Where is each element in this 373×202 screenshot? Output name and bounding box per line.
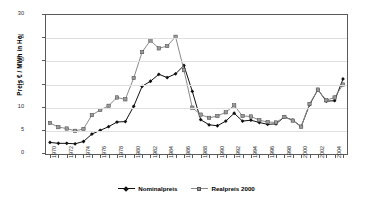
x-tick-label: 1980 <box>136 128 141 158</box>
data-point <box>207 116 210 119</box>
y-tick-label: 20 <box>2 57 24 63</box>
data-point <box>190 90 194 94</box>
data-point <box>291 119 294 122</box>
x-tick-mark <box>109 155 110 158</box>
x-tick-label: 1982 <box>153 128 158 158</box>
gridline <box>46 38 347 39</box>
data-point <box>199 113 202 116</box>
x-tick-mark <box>259 155 260 158</box>
series-nominalpreis <box>48 64 345 146</box>
data-point <box>333 96 336 99</box>
legend-label: Nominalpreis <box>138 185 177 192</box>
x-tick-mark <box>142 155 143 158</box>
data-point <box>316 88 319 91</box>
data-point <box>115 96 118 99</box>
data-point <box>249 118 253 122</box>
data-point <box>115 120 119 124</box>
data-point <box>65 127 68 130</box>
x-tick-label: 1994 <box>253 128 258 158</box>
data-point <box>266 120 269 123</box>
x-tick-mark <box>276 155 277 158</box>
series-line <box>50 66 343 144</box>
x-tick-mark <box>251 155 252 158</box>
data-point <box>140 50 143 53</box>
data-point <box>165 76 169 80</box>
x-tick-mark <box>243 155 244 158</box>
data-point <box>341 77 345 81</box>
data-point <box>232 104 235 107</box>
legend-label: Realpreis 2000 <box>211 185 254 192</box>
y-tick-label: 0 <box>2 150 24 156</box>
x-tick-mark <box>293 155 294 158</box>
legend-entry[interactable]: Nominalpreis <box>118 185 177 192</box>
x-tick-label: 1972 <box>69 128 74 158</box>
data-point <box>249 115 252 118</box>
x-tick-mark <box>134 155 135 158</box>
data-point <box>325 99 328 102</box>
data-point <box>258 118 261 121</box>
x-tick-mark <box>92 155 93 158</box>
x-tick-label: 1996 <box>270 128 275 158</box>
data-point <box>99 108 102 111</box>
x-tick-label: 1990 <box>220 128 225 158</box>
x-tick-mark <box>343 155 344 158</box>
x-tick-label: 1976 <box>102 128 107 158</box>
data-point <box>48 121 51 124</box>
x-tick-mark <box>335 155 336 158</box>
data-point <box>166 44 169 47</box>
data-point <box>283 115 286 118</box>
x-tick-mark <box>268 155 269 158</box>
x-tick-mark <box>209 155 210 158</box>
x-tick-mark <box>67 155 68 158</box>
data-point <box>308 102 311 105</box>
data-point <box>149 39 152 42</box>
x-tick-mark <box>125 155 126 158</box>
x-tick-label: 1986 <box>186 128 191 158</box>
x-tick-label: 1978 <box>119 128 124 158</box>
x-tick-mark <box>176 155 177 158</box>
data-point <box>157 47 160 50</box>
data-point <box>132 76 135 79</box>
x-tick-mark <box>167 155 168 158</box>
y-tick-label: 15 <box>2 81 24 87</box>
gridline <box>46 85 347 86</box>
legend-entry[interactable]: Realpreis 2000 <box>191 185 254 192</box>
data-point <box>123 120 127 124</box>
x-tick-mark <box>75 155 76 158</box>
x-tick-mark <box>284 155 285 158</box>
x-tick-mark <box>100 155 101 158</box>
gridline <box>46 61 347 62</box>
x-tick-mark <box>58 155 59 158</box>
x-tick-mark <box>201 155 202 158</box>
x-tick-mark <box>184 155 185 158</box>
x-tick-mark <box>50 155 51 158</box>
x-tick-label: 2000 <box>303 128 308 158</box>
x-tick-mark <box>301 155 302 158</box>
x-tick-mark <box>117 155 118 158</box>
x-tick-mark <box>318 155 319 158</box>
x-tick-label: 1988 <box>203 128 208 158</box>
y-axis-title: Preis € / MWh in Ho <box>16 16 23 116</box>
x-tick-label: 2002 <box>320 128 325 158</box>
x-tick-mark <box>159 155 160 158</box>
x-tick-mark <box>310 155 311 158</box>
x-tick-mark <box>217 155 218 158</box>
x-tick-label: 1970 <box>52 128 57 158</box>
data-point <box>224 111 227 114</box>
legend-marker-diamond-icon <box>118 185 135 192</box>
x-tick-label: 1992 <box>236 128 241 158</box>
y-tick-label: 10 <box>2 104 24 110</box>
chart-legend: NominalpreisRealpreis 2000 <box>0 185 373 192</box>
x-tick-mark <box>234 155 235 158</box>
y-tick-label: 30 <box>2 11 24 17</box>
x-tick-label: 2004 <box>337 128 342 158</box>
price-line-chart: Preis € / MWh in Ho 051015202530 1970197… <box>0 0 373 202</box>
x-tick-mark <box>192 155 193 158</box>
data-point <box>216 114 219 117</box>
gridline <box>46 108 347 109</box>
x-tick-mark <box>83 155 84 158</box>
x-tick-label: 1998 <box>287 128 292 158</box>
data-point <box>216 124 220 128</box>
y-tick-label: 5 <box>2 127 24 133</box>
x-tick-mark <box>150 155 151 158</box>
